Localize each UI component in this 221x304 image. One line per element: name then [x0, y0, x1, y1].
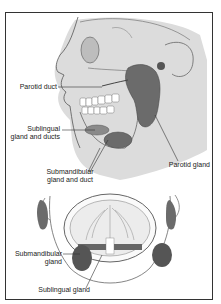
label-line: gland [4, 258, 62, 266]
label-line: gland and ducts [2, 133, 60, 141]
label-sublingual-gland: Sublingual gland [30, 286, 90, 294]
label-parotid-duct: Parotid duct [10, 83, 57, 91]
label-submandibular-gland: Submandibular gland [4, 250, 62, 266]
label-submandibular-gland-duct: Submandibular gland and duct [40, 168, 100, 184]
label-parotid-gland: Parotid gland [162, 161, 210, 169]
lateral-head-view [55, 17, 207, 180]
label-line: Submandibular [4, 250, 62, 258]
frontal-view [37, 194, 179, 288]
label-line: Sublingual [2, 125, 60, 133]
submandibular-gland-shape [104, 132, 132, 148]
label-sublingual-gland-ducts: Sublingual gland and ducts [2, 125, 60, 141]
label-line: Submandibular [40, 168, 100, 176]
label-line: gland and duct [40, 176, 100, 184]
